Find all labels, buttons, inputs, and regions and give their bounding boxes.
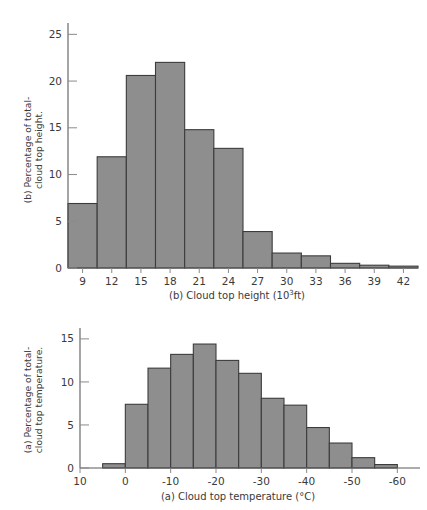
x-tick-label-a: -20: [207, 475, 224, 487]
y-tick-label-b: 10: [49, 168, 62, 180]
histogram-bar: [352, 458, 375, 468]
histogram-bar: [307, 428, 330, 468]
y-tick-label-a: 15: [61, 332, 74, 344]
histogram-bar: [171, 354, 194, 468]
x-tick-label-a: -50: [343, 475, 360, 487]
x-tick-label-b: 24: [222, 275, 236, 287]
x-tick-label-b: 39: [368, 275, 381, 287]
x-tick-label-a: -40: [298, 475, 315, 487]
histogram-bar: [185, 130, 214, 268]
histogram-bar: [126, 75, 155, 268]
histogram-bar: [261, 398, 284, 468]
y-tick-label-b: 20: [49, 75, 62, 87]
histogram-bar: [214, 148, 243, 268]
y-tick-label-a: 5: [67, 419, 74, 431]
y-tick-label-b: 5: [55, 215, 62, 227]
histogram-bar: [156, 62, 185, 268]
x-tick-label-b: 27: [251, 275, 264, 287]
histogram-bar: [193, 344, 216, 468]
histogram-bar: [284, 405, 307, 468]
histogram-bar: [148, 368, 171, 468]
histogram-bar: [329, 443, 352, 468]
x-tick-label-b: 42: [397, 275, 410, 287]
x-tick-label-a: 0: [122, 475, 129, 487]
x-axis-title-b: (b) Cloud top height (103ft): [169, 289, 305, 301]
x-tick-label-b: 36: [338, 275, 352, 287]
histogram-bar: [272, 253, 301, 268]
figure-container: 051015202591215182124273033363942(b) Clo…: [0, 0, 427, 510]
x-tick-label-a: -10: [162, 475, 179, 487]
histogram-bar: [97, 157, 126, 268]
histogram-bar: [216, 360, 239, 468]
x-tick-label-b: 15: [134, 275, 147, 287]
histogram-bar: [243, 232, 272, 268]
y-tick-label-a: 10: [61, 376, 74, 388]
x-axis-title-a: (a) Cloud top temperature (°C): [161, 491, 315, 502]
x-tick-label-a: -60: [389, 475, 406, 487]
histogram-bar: [331, 263, 360, 268]
x-tick-label-a: -30: [253, 475, 270, 487]
y-tick-label-a: 0: [67, 462, 74, 474]
histogram-bar: [68, 204, 97, 268]
histogram-figure: 051015202591215182124273033363942(b) Clo…: [0, 0, 427, 510]
chart-panel-b: 051015202591215182124273033363942(b) Clo…: [22, 23, 418, 301]
y-tick-label-b: 15: [49, 121, 62, 133]
x-tick-label-b: 18: [163, 275, 176, 287]
x-tick-label-b: 12: [105, 275, 118, 287]
histogram-bar: [125, 404, 148, 468]
y-tick-label-b: 0: [55, 262, 62, 274]
chart-panel-a: 051015100-10-20-30-40-50-60(a) Cloud top…: [22, 328, 420, 502]
y-axis-title-b: (b) Percentage of total-cloud top height…: [22, 97, 44, 204]
histogram-bar: [301, 256, 330, 268]
x-tick-label-b: 9: [79, 275, 86, 287]
x-tick-label-a: 10: [73, 475, 86, 487]
y-axis-title-a: (a) Percentage of total-cloud top temper…: [22, 347, 44, 453]
histogram-bar: [103, 464, 126, 468]
x-tick-label-b: 33: [309, 275, 322, 287]
y-tick-label-b: 25: [49, 28, 62, 40]
histogram-bar: [239, 373, 262, 468]
x-tick-label-b: 30: [280, 275, 293, 287]
x-tick-label-b: 21: [193, 275, 206, 287]
